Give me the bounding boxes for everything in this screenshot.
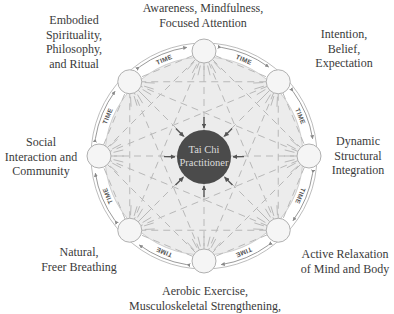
node-top [192, 39, 216, 63]
label-left: Social Interaction and Community [0, 135, 82, 179]
node-top-right [266, 70, 290, 94]
label-bottom-left: Natural, Freer Breathing [24, 245, 134, 274]
node-bottom-left [118, 218, 142, 242]
node-left [87, 144, 111, 168]
label-top-right: Intention, Belief, Expectation [298, 27, 390, 71]
node-top-left [118, 70, 142, 94]
center-label-line2: Practitioner [180, 157, 229, 168]
label-top-left: Embodied Spirituality, Philosophy, and R… [42, 13, 106, 71]
node-right [297, 144, 321, 168]
label-bottom-right: Active Relaxation of Mind and Body [290, 247, 394, 276]
label-top: Awareness, Mindfulness, Focused Attentio… [128, 1, 278, 30]
node-bottom-right [266, 218, 290, 242]
label-bottom: Aerobic Exercise, Musculoskeletal Streng… [110, 284, 300, 313]
center-label-line1: Tai Chi [188, 144, 219, 155]
label-right: Dynamic Structural Integration [322, 134, 394, 178]
node-bottom [192, 249, 216, 273]
